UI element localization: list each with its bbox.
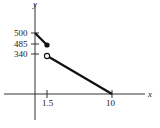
x-tick-label-10: 10: [106, 98, 116, 108]
y-tick-label-500: 500: [14, 28, 28, 38]
y-tick-label-485: 485: [14, 39, 28, 49]
filled-endpoint: [44, 42, 49, 47]
y-tick-label-340: 340: [14, 49, 28, 59]
open-endpoint: [44, 53, 49, 58]
y-axis-label: y: [32, 0, 37, 9]
piecewise-graph: x y 1.5 10 500 485 340: [0, 0, 160, 128]
x-axis-label: x: [147, 89, 152, 99]
x-tick-label-1.5: 1.5: [42, 98, 54, 108]
segment-2: [49, 57, 112, 94]
